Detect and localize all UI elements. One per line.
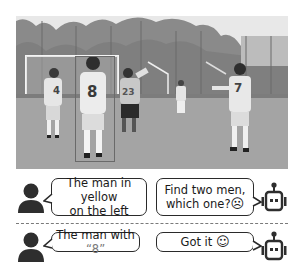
quoted-number: “8” <box>86 242 105 256</box>
bot-message-bubble: Find two men, which one?☹ <box>156 178 254 216</box>
person-icon <box>17 182 45 214</box>
svg-text:23: 23 <box>122 87 135 97</box>
bubble-tail-left <box>43 193 53 205</box>
dashed-divider <box>16 223 288 224</box>
soccer-photo: 4 8 23 <box>16 16 288 169</box>
sad-face-icon: ☹ <box>231 196 245 211</box>
svg-text:4: 4 <box>53 85 60 96</box>
bot-message-bubble: Got it ☺ <box>156 232 254 252</box>
robot-icon <box>261 181 287 215</box>
person-icon <box>17 231 45 263</box>
bot-message-text: Got it ☺ <box>180 235 229 249</box>
robot-icon <box>261 230 287 264</box>
svg-text:7: 7 <box>234 81 242 95</box>
user-message-bubble: The man with “8” <box>51 232 140 252</box>
bot-message-text: Find two men, which one?☹ <box>164 183 245 211</box>
user-message-text: The man with “8” <box>52 228 139 256</box>
soccer-scene: 4 8 23 <box>16 16 288 169</box>
highlight-bounding-box <box>75 56 115 162</box>
user-message-bubble: The man in yellow on the left <box>51 178 147 216</box>
bubble-tail-left <box>43 238 53 250</box>
user-message-text: The man in yellow on the left <box>52 176 146 218</box>
smile-face-icon: ☺ <box>216 234 230 249</box>
